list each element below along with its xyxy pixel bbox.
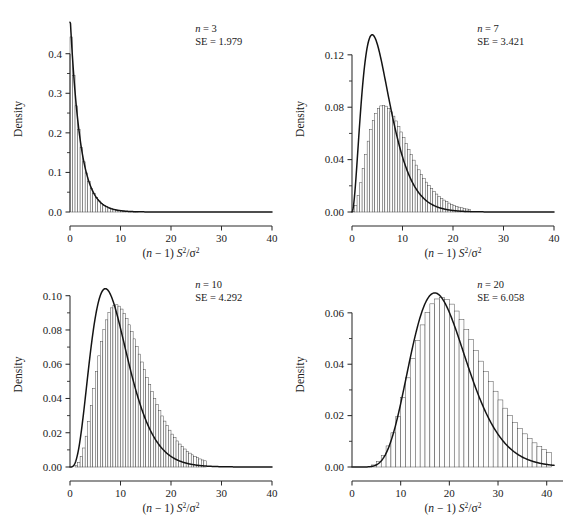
y-axis-title: Density	[12, 356, 25, 392]
y-tick-label: 0.0	[48, 206, 62, 218]
x-tick-label: 0	[349, 487, 355, 499]
x-tick-label: 0	[349, 232, 355, 244]
x-axis-title: (n − 1) S2/σ2	[425, 501, 482, 516]
y-tick-label: 0.02	[325, 409, 344, 421]
x-tick-label: 20	[166, 232, 178, 244]
y-axis-ticks: 0.00.10.20.30.4	[48, 48, 70, 218]
histogram-bars	[70, 37, 138, 212]
x-tick-label: 10	[115, 487, 127, 499]
chart-panel-bottom-right: 0.000.020.040.06010203040(n − 1) S2/σ2De…	[282, 260, 564, 521]
x-axis-ticks: 010203040	[349, 226, 560, 244]
panel-annotation: n = 7SE = 3.421	[477, 23, 524, 47]
x-axis-ticks: 010203040	[67, 481, 278, 499]
y-tick-label: 0.2	[48, 127, 62, 139]
histogram-bars	[371, 298, 551, 467]
x-tick-label: 20	[166, 487, 178, 499]
y-tick-label: 0.4	[48, 48, 62, 60]
x-tick-label: 30	[216, 232, 228, 244]
chart-panel-bottom-left: 0.000.020.040.060.080.10010203040(n − 1)…	[0, 260, 282, 521]
panel-annotation: n = 3SE = 1.979	[195, 23, 242, 47]
x-tick-label: 0	[67, 487, 73, 499]
y-axis-ticks: 0.000.020.040.06	[325, 307, 352, 473]
x-tick-label: 40	[267, 487, 279, 499]
y-tick-label: 0.00	[325, 206, 345, 218]
x-tick-label: 0	[67, 232, 73, 244]
x-tick-label: 30	[216, 487, 228, 499]
y-tick-label: 0.04	[43, 392, 63, 404]
x-tick-label: 30	[493, 487, 505, 499]
x-tick-label: 40	[541, 487, 553, 499]
x-axis-ticks: 010203040	[349, 481, 552, 499]
y-tick-label: 0.08	[325, 101, 345, 113]
standard-error-label: SE = 6.058	[477, 292, 524, 303]
sample-size-label: n = 10	[195, 279, 222, 290]
sample-size-label: n = 7	[477, 23, 499, 34]
y-tick-label: 0.02	[43, 427, 62, 439]
x-tick-label: 10	[395, 487, 407, 499]
y-tick-label: 0.00	[325, 461, 345, 473]
panel-annotation: n = 10SE = 4.292	[195, 279, 242, 303]
chart-panel-top-right: 0.000.040.080.12010203040(n − 1) S2/σ2De…	[282, 0, 564, 260]
y-axis-title: Density	[294, 356, 307, 392]
y-tick-label: 0.3	[48, 87, 62, 99]
x-tick-label: 10	[397, 232, 409, 244]
y-tick-label: 0.10	[43, 290, 63, 302]
density-curve	[70, 22, 272, 212]
chi-square-sampling-distribution-figure: 0.00.10.20.30.4010203040(n − 1) S2/σ2Den…	[0, 0, 564, 521]
x-tick-label: 30	[498, 232, 510, 244]
x-tick-label: 10	[115, 232, 127, 244]
standard-error-label: SE = 3.421	[477, 36, 524, 47]
histogram-bars	[352, 105, 471, 212]
panel-annotation: n = 20SE = 6.058	[477, 279, 524, 303]
x-axis-ticks: 010203040	[67, 226, 278, 244]
x-axis-title: (n − 1) S2/σ2	[143, 501, 200, 516]
y-tick-label: 0.00	[43, 461, 63, 473]
y-axis-title: Density	[12, 101, 25, 137]
y-tick-label: 0.12	[325, 49, 344, 61]
sample-size-label: n = 20	[477, 279, 504, 290]
y-tick-label: 0.08	[43, 324, 63, 336]
y-tick-label: 0.04	[325, 153, 345, 165]
y-axis-ticks: 0.000.040.080.12	[325, 49, 352, 218]
x-tick-label: 20	[448, 232, 460, 244]
chart-panel-top-left: 0.00.10.20.30.4010203040(n − 1) S2/σ2Den…	[0, 0, 282, 260]
x-tick-label: 20	[444, 487, 456, 499]
y-tick-label: 0.04	[325, 358, 345, 370]
histogram-bars	[75, 305, 206, 467]
standard-error-label: SE = 1.979	[195, 36, 242, 47]
x-axis-title: (n − 1) S2/σ2	[425, 246, 482, 261]
y-tick-label: 0.1	[48, 166, 62, 178]
standard-error-label: SE = 4.292	[195, 292, 242, 303]
y-axis-title: Density	[294, 101, 307, 137]
x-axis-title: (n − 1) S2/σ2	[143, 246, 200, 261]
y-tick-label: 0.06	[43, 358, 63, 370]
y-axis-ticks: 0.000.020.040.060.080.10	[43, 290, 70, 473]
x-tick-label: 40	[549, 232, 561, 244]
sample-size-label: n = 3	[195, 23, 217, 34]
y-tick-label: 0.06	[325, 307, 345, 319]
x-tick-label: 40	[267, 232, 279, 244]
